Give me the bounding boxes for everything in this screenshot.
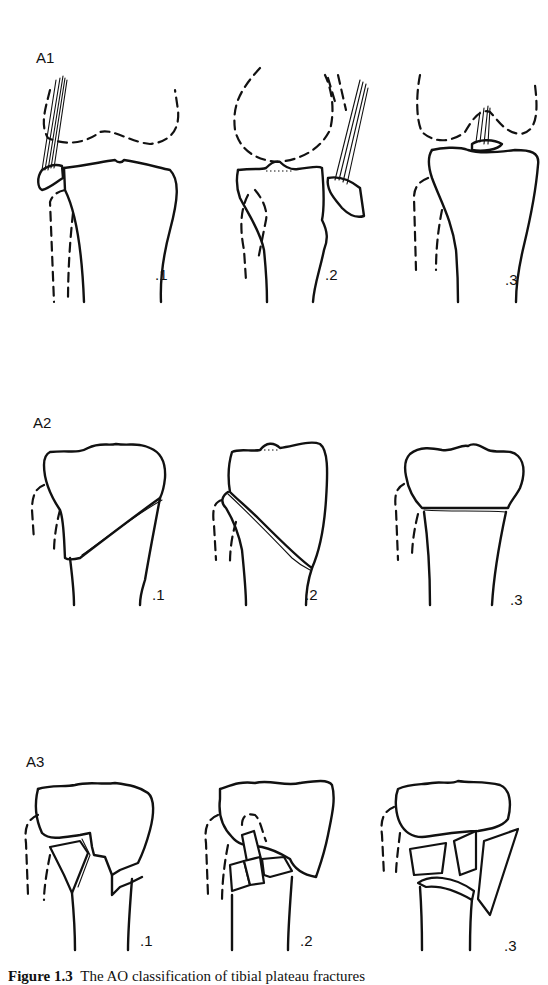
illustration-a2-3 xyxy=(370,440,540,600)
panel-label-a2-1: .1 xyxy=(152,586,165,603)
illustration-a3-3 xyxy=(370,775,540,950)
illustration-a3-2 xyxy=(200,775,370,950)
panel-label-a1-3: .3 xyxy=(505,271,518,288)
row-label-a3: A3 xyxy=(26,753,44,770)
panel-label-a2-2: .2 xyxy=(305,586,318,603)
row-label-a2: A2 xyxy=(33,414,51,431)
illustration-a1-3 xyxy=(380,70,540,300)
illustration-a3-1 xyxy=(20,775,200,950)
panel-label-a3-3: .3 xyxy=(504,937,517,954)
panel-label-a3-1: .1 xyxy=(140,932,153,949)
panel-label-a1-2: .2 xyxy=(325,266,338,283)
row-label-a1: A1 xyxy=(36,49,54,66)
panel-label-a1-1: .1 xyxy=(155,266,168,283)
figure-page: A1 .1 .2 xyxy=(0,0,548,985)
figure-caption-text: The AO classification of tibial plateau … xyxy=(80,968,365,984)
panel-label-a3-2: .2 xyxy=(300,932,313,949)
illustration-a2-1 xyxy=(20,440,200,600)
panel-label-a2-3: .3 xyxy=(510,591,523,608)
illustration-a1-2 xyxy=(210,70,370,300)
illustration-a2-2 xyxy=(200,440,370,600)
figure-number: Figure 1.3 xyxy=(8,968,73,984)
figure-caption: Figure 1.3 The AO classification of tibi… xyxy=(8,968,365,985)
illustration-a1-1 xyxy=(20,70,200,300)
